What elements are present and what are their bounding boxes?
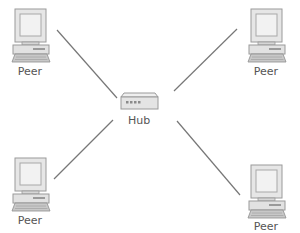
computer-icon-top-right xyxy=(248,9,286,62)
computer-icon-top-left xyxy=(12,9,50,62)
edge-top-right-to-hub xyxy=(174,29,237,91)
peer-label-top-left: Peer xyxy=(18,66,42,77)
peer-label-top-right: Peer xyxy=(254,66,278,77)
edge-bottom-left-to-hub xyxy=(54,120,113,179)
peer-label-bottom-right: Peer xyxy=(254,221,278,232)
connection-lines xyxy=(54,29,240,195)
star-network-diagram: Peer Peer Peer Peer Hub xyxy=(0,0,300,233)
computer-icon-bottom-right xyxy=(248,165,286,218)
edge-top-left-to-hub xyxy=(57,30,117,98)
hub-icon xyxy=(121,93,158,109)
edge-bottom-right-to-hub xyxy=(177,121,240,195)
computer-icon-bottom-left xyxy=(12,158,50,211)
peer-label-bottom-left: Peer xyxy=(18,215,42,226)
hub-label: Hub xyxy=(128,115,150,126)
